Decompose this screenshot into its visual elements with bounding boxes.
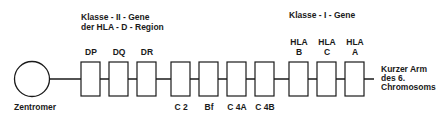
gene-label-hla-c-1: HLA (312, 37, 342, 47)
class2-title-line1: Klasse - II - Gene (81, 12, 150, 22)
gene-box-c4b (255, 62, 274, 96)
centromere-circle (15, 62, 50, 97)
gene-box-dr (137, 62, 156, 96)
gene-box-hla-a (345, 62, 364, 96)
class1-title: Klasse - I - Gene (289, 10, 355, 20)
gene-box-c4a (227, 62, 246, 96)
class2-title-line2: der HLA - D - Region (81, 22, 164, 32)
gene-label-dr: DR (132, 47, 162, 57)
centromere-label: Zentromer (14, 102, 56, 112)
gene-label-c2: C 2 (166, 102, 196, 112)
gene-box-c2 (171, 62, 190, 96)
gene-label-hla-a-2: A (340, 47, 370, 57)
gene-box-dq (109, 62, 128, 96)
gene-label-hla-c-2: C (312, 47, 342, 57)
gene-box-hla-b (289, 62, 308, 96)
gene-label-hla-b-1: HLA (284, 37, 314, 47)
gene-box-bf (199, 62, 218, 96)
gene-label-hla-a-1: HLA (340, 37, 370, 47)
gene-label-dq: DQ (104, 47, 134, 57)
gene-label-dp: DP (76, 47, 106, 57)
gene-box-hla-c (317, 62, 336, 96)
arm-label-line3: Chromosoms (381, 82, 436, 92)
gene-label-c4a: C 4A (222, 102, 252, 112)
gene-label-bf: Bf (194, 102, 224, 112)
gene-label-hla-b-2: B (284, 47, 314, 57)
gene-label-c4b: C 4B (250, 102, 280, 112)
gene-box-dp (81, 62, 100, 96)
